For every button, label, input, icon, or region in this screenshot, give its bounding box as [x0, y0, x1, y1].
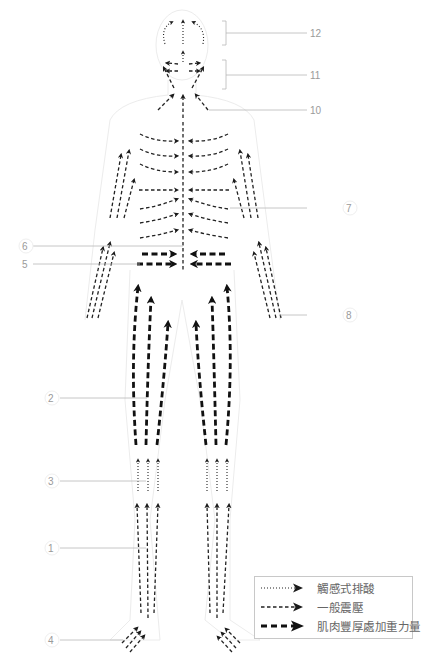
callout-5: 5 [22, 259, 28, 270]
callout-4: 4 [48, 635, 54, 646]
legend: 觸感式排酸 一般震壓 肌肉豐厚處加重力量 [254, 576, 413, 639]
legend-label: 觸感式排酸 [317, 580, 375, 596]
thigh-arrows [133, 287, 230, 445]
callout-6: 6 [22, 241, 28, 252]
torso-arrows [139, 134, 229, 238]
legend-item-dashed: 一般震壓 [259, 598, 363, 616]
forearm-arrows [87, 243, 281, 318]
callout-11: 11 [310, 70, 321, 81]
callout-7: 7 [346, 203, 352, 214]
foot-arrows [122, 628, 240, 652]
callout-3: 3 [48, 476, 54, 487]
legend-label: 肌肉豐厚處加重力量 [317, 618, 421, 634]
waist-arrows [137, 254, 231, 264]
leader-lines [33, 21, 307, 640]
dashed-arrow-icon [259, 601, 311, 613]
callout-12: 12 [310, 28, 322, 39]
neck-arrows [158, 95, 208, 118]
legend-item-bold-dashed: 肌肉豐厚處加重力量 [259, 617, 421, 635]
knee-arrows [138, 460, 227, 491]
legend-label: 一般震壓 [317, 599, 363, 615]
head-arrows [164, 21, 204, 62]
callout-10: 10 [310, 105, 322, 116]
dotted-arrow-icon [259, 582, 311, 594]
callout-1: 1 [48, 543, 54, 554]
legend-item-dotted: 觸感式排酸 [259, 579, 375, 597]
callout-8: 8 [346, 310, 352, 321]
callout-numbers: 12 11 10 7 8 6 5 2 3 1 4 [19, 28, 357, 647]
callout-2: 2 [48, 393, 54, 404]
bold-dashed-arrow-icon [259, 620, 311, 632]
